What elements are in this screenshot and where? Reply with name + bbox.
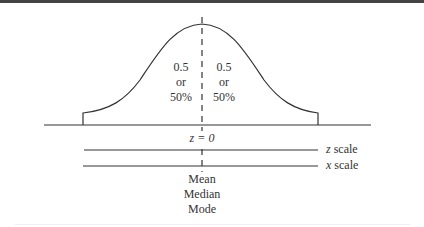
right-half-connector: or	[204, 75, 244, 90]
z-zero-label: z = 0	[172, 131, 232, 146]
right-half-label: 0.5 or 50%	[204, 60, 244, 105]
left-half-percent: 50%	[161, 90, 201, 105]
mode-label: Mode	[172, 202, 232, 217]
median-label: Median	[172, 187, 232, 202]
right-half-percent: 50%	[204, 90, 244, 105]
left-half-connector: or	[161, 75, 201, 90]
left-half-value: 0.5	[161, 60, 201, 75]
normal-curve-diagram: 0.5 or 50% 0.5 or 50% z = 0 z scale x sc…	[0, 0, 424, 227]
bottom-border	[15, 224, 410, 225]
right-half-value: 0.5	[204, 60, 244, 75]
x-scale-label: x scale	[326, 158, 358, 173]
z-scale-text: scale	[334, 142, 358, 156]
z-scale-label: z scale	[326, 142, 358, 157]
z-scale-var: z	[326, 142, 331, 156]
center-measures: Mean Median Mode	[172, 172, 232, 217]
x-scale-text: scale	[334, 158, 358, 172]
left-half-label: 0.5 or 50%	[161, 60, 201, 105]
mean-label: Mean	[172, 172, 232, 187]
x-scale-var: x	[326, 158, 331, 172]
